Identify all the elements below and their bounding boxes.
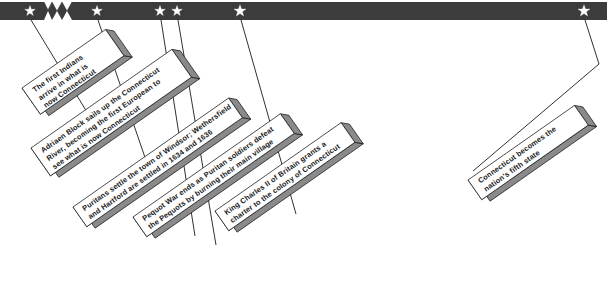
timeline-bar-zigzag-break-icon <box>44 2 72 11</box>
timeline-bar-left-segment <box>0 2 76 20</box>
timeline-bar-right-segment <box>76 2 607 20</box>
label-box-fifth-state[interactable]: Connecticut becomes the nation's fifth s… <box>468 102 597 205</box>
timeline-diagram: The first Indians arrive in what is now … <box>0 0 607 304</box>
timeline-bar <box>0 2 607 20</box>
